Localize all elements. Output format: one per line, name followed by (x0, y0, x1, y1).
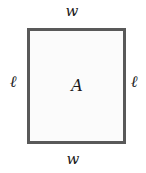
length-label-right: ℓ (125, 74, 143, 90)
width-label-top: w (57, 4, 87, 19)
length-label-left: ℓ (4, 74, 22, 90)
rectangle-area-diagram: w ℓ A ℓ w (0, 0, 146, 173)
width-label-bottom: w (58, 152, 88, 167)
area-label: A (65, 78, 89, 94)
